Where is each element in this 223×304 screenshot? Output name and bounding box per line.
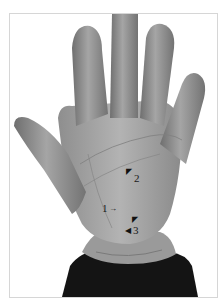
index-finger [72,26,108,126]
label-1: 1 [102,203,108,214]
arrow-2-icon: ◤ [126,168,132,176]
label-3: 3 [133,225,139,236]
arrow-3b-icon: ◤ [132,216,138,224]
palm-photo [10,14,217,297]
arrow-3-icon: ◀ [125,227,131,235]
middle-finger [110,14,138,118]
label-2: 2 [134,173,140,184]
arrow-1-icon: → [109,205,117,213]
photo-frame: ◤ 2 1 → ◤ ◀ 3 [9,13,218,298]
